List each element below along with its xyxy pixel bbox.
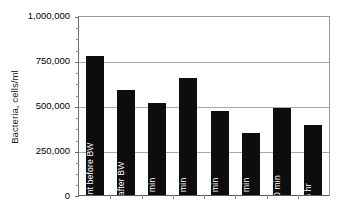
y-tick-mark-0 [75, 196, 79, 197]
bar-0[interactable]: Filter Effluent before BW [86, 56, 104, 195]
bar-label-1: 0 min after BW [117, 162, 126, 195]
bar-label-5: 60 min [242, 178, 251, 195]
bar-label-3: 30 min [179, 178, 188, 195]
bar-label-2: 15 min [148, 178, 157, 195]
bacteria-bar-chart: Bacteria, cells/ml 1,000,000 750,000 500… [0, 0, 338, 214]
x-tick-1 [142, 195, 143, 199]
y-tick-label-500000: 500,000 [36, 101, 70, 111]
y-tick-label-0: 0 [65, 191, 70, 201]
x-tick-5 [267, 195, 268, 199]
y-tick-label-1000000: 1,000,000 [28, 11, 70, 21]
y-axis-tick-labels: 1,000,000 750,000 500,000 250,000 0 [18, 0, 74, 214]
x-tick-4 [235, 195, 236, 199]
bar-5[interactable]: 60 min [242, 133, 260, 195]
y-tick-label-750000: 750,000 [36, 56, 70, 66]
x-tick-2 [173, 195, 174, 199]
x-tick-0 [110, 195, 111, 199]
bar-3[interactable]: 30 min [179, 78, 197, 195]
bar-1[interactable]: 0 min after BW [117, 90, 135, 195]
bar-label-7: 6 hr [304, 183, 313, 195]
bar-6[interactable]: 120 min [273, 108, 291, 195]
bar-label-4: 45 min [211, 178, 220, 195]
bar-label-0: Filter Effluent before BW [86, 142, 95, 195]
plot-area: Filter Effluent before BW0 min after BW1… [78, 16, 330, 196]
bar-7[interactable]: 6 hr [304, 125, 322, 195]
bars-layer: Filter Effluent before BW0 min after BW1… [79, 17, 329, 195]
x-tick-3 [204, 195, 205, 199]
x-tick-6 [298, 195, 299, 199]
bar-label-6: 120 min [273, 175, 282, 195]
bar-2[interactable]: 15 min [148, 103, 166, 195]
bar-4[interactable]: 45 min [211, 111, 229, 195]
y-tick-label-250000: 250,000 [36, 146, 70, 156]
